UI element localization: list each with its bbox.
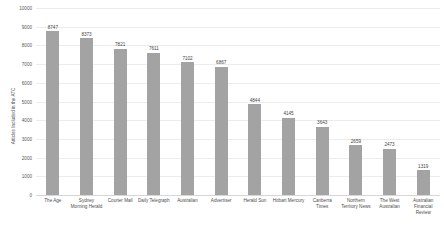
bar[interactable] bbox=[316, 127, 329, 195]
bar-value-label: 6867 bbox=[216, 60, 226, 65]
y-axis-tick-label: 7000 bbox=[22, 62, 32, 67]
x-axis-category-label: Hobart Mercury bbox=[272, 198, 306, 246]
bar[interactable] bbox=[383, 149, 396, 195]
y-axis-tick-label: 1000 bbox=[22, 174, 32, 179]
bar-slot[interactable]: 8747 bbox=[36, 8, 70, 195]
bar[interactable] bbox=[282, 118, 295, 196]
bar-value-label: 2659 bbox=[351, 139, 361, 144]
x-axis-category-label: Advertiser bbox=[204, 198, 238, 246]
x-axis-category-label: The Age bbox=[36, 198, 70, 246]
bar-value-label: 2473 bbox=[384, 142, 394, 147]
x-axis-category-label: Australian bbox=[171, 198, 205, 246]
bar-value-label: 7611 bbox=[149, 46, 159, 51]
y-axis-tick-label: 2000 bbox=[22, 155, 32, 160]
bar-slot[interactable]: 7611 bbox=[137, 8, 171, 195]
bar-value-label: 8373 bbox=[81, 32, 91, 37]
bar-slot[interactable]: 2473 bbox=[373, 8, 407, 195]
bar-slot[interactable]: 3643 bbox=[305, 8, 339, 195]
bar[interactable] bbox=[181, 62, 194, 195]
x-axis-labels: The AgeSydney Morning HeraldCourier Mail… bbox=[36, 198, 440, 246]
bar-value-label: 3643 bbox=[317, 120, 327, 125]
bar[interactable] bbox=[248, 104, 261, 195]
y-axis-tick-label: 5000 bbox=[22, 99, 32, 104]
bar-slot[interactable]: 1319 bbox=[406, 8, 440, 195]
y-axis-tick-label: 9000 bbox=[22, 24, 32, 29]
x-axis-category-label: Canberra Times bbox=[305, 198, 339, 246]
y-axis-tick-label: 4000 bbox=[22, 118, 32, 123]
plot-area: 1000090008000700060005000400030002000100… bbox=[36, 8, 440, 195]
y-axis-tick-label: 0 bbox=[29, 193, 32, 198]
bar-chart: Articles Included in the ATC 10000900080… bbox=[0, 0, 444, 250]
bar-value-label: 1319 bbox=[418, 164, 428, 169]
bar[interactable] bbox=[147, 53, 160, 195]
x-axis-category-label: Courier Mail bbox=[103, 198, 137, 246]
x-axis-category-label: Sydney Morning Herald bbox=[70, 198, 104, 246]
x-axis-category-label: Herald Sun bbox=[238, 198, 272, 246]
bar-slot[interactable]: 7102 bbox=[171, 8, 205, 195]
bar-value-label: 4145 bbox=[283, 111, 293, 116]
bar-slot[interactable]: 7821 bbox=[103, 8, 137, 195]
bar-slot[interactable]: 4844 bbox=[238, 8, 272, 195]
y-axis-tick-label: 3000 bbox=[22, 136, 32, 141]
bar[interactable] bbox=[349, 145, 362, 195]
y-axis-tick-label: 8000 bbox=[22, 43, 32, 48]
x-axis-category-label: Daily Telegraph bbox=[137, 198, 171, 246]
y-axis-title: Articles Included in the ATC bbox=[9, 36, 19, 196]
bar-slot[interactable]: 8373 bbox=[70, 8, 104, 195]
x-axis-category-label: Northern Territory News bbox=[339, 198, 373, 246]
bar-slot[interactable]: 6867 bbox=[204, 8, 238, 195]
bar[interactable] bbox=[46, 31, 59, 195]
bar[interactable] bbox=[215, 67, 228, 195]
x-axis-category-label: Australian Financial Review bbox=[406, 198, 440, 246]
bar[interactable] bbox=[114, 49, 127, 195]
bar-slot[interactable]: 2659 bbox=[339, 8, 373, 195]
bar-value-label: 7102 bbox=[182, 56, 192, 61]
x-axis-category-label: The West Australian bbox=[373, 198, 407, 246]
bar-value-label: 4844 bbox=[250, 98, 260, 103]
bar-series: 8747837378217611710268674844414536432659… bbox=[36, 8, 440, 195]
bar[interactable] bbox=[417, 170, 430, 195]
bar[interactable] bbox=[80, 38, 93, 195]
bar-slot[interactable]: 4145 bbox=[272, 8, 306, 195]
bar-value-label: 8747 bbox=[48, 25, 58, 30]
y-axis-tick-label: 10000 bbox=[19, 6, 32, 11]
y-axis-tick-label: 6000 bbox=[22, 80, 32, 85]
gridline bbox=[36, 195, 440, 196]
bar-value-label: 7821 bbox=[115, 42, 125, 47]
